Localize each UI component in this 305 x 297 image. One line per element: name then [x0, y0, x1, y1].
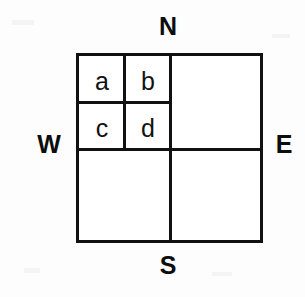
- compass-label-north: N: [153, 14, 183, 39]
- horizontal-divider-sub: [79, 101, 169, 104]
- cell-label-d: d: [135, 116, 161, 141]
- scan-artifact: [12, 20, 34, 25]
- compass-label-east: E: [269, 132, 299, 157]
- scan-artifact: [24, 268, 40, 273]
- scan-artifact: [272, 34, 290, 38]
- compass-label-south: S: [153, 253, 183, 278]
- horizontal-divider-main: [79, 148, 260, 151]
- cell-label-b: b: [135, 69, 161, 94]
- compass-label-west: W: [34, 132, 64, 157]
- cell-label-a: a: [89, 69, 115, 94]
- quadtree-figure: N S W E a b c d: [0, 0, 305, 297]
- scan-artifact: [212, 272, 232, 276]
- cell-label-c: c: [89, 116, 115, 141]
